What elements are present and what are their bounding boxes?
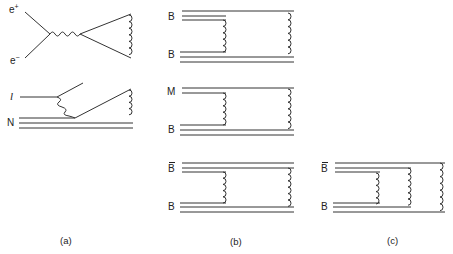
lepton-label: l: [10, 91, 13, 102]
caption-a: (a): [60, 236, 72, 246]
gluon-spring: [223, 93, 226, 125]
gluon-spring: [288, 13, 291, 54]
gluon-spring: [129, 15, 132, 55]
bb-exchange-diagram: [180, 11, 294, 62]
quark-line: [80, 14, 131, 34]
mb-exchange-diagram: [180, 88, 294, 135]
nucleon-label: N: [7, 118, 14, 128]
gluon-spring: [440, 163, 443, 211]
diagram-canvas: [0, 0, 453, 254]
feynman-diagram-figure: e+ e− l N (a) B B M B B B (b) B B (c): [0, 0, 453, 254]
gluon-spring: [288, 168, 291, 206]
caption-c: (c): [387, 236, 398, 246]
positron-line: [25, 12, 50, 34]
baryon-label: B: [168, 50, 175, 60]
bbarb-exchange-diagram: [180, 163, 294, 212]
dis-diagram: [19, 83, 133, 128]
electron-line: [25, 34, 50, 58]
positron-label: e+: [9, 3, 19, 15]
gluon-spring: [223, 172, 226, 203]
baryon-label: B: [168, 12, 175, 22]
photon-propagator: [50, 32, 80, 36]
antibaryon-label: B: [321, 164, 328, 174]
baryon-label: B: [321, 202, 328, 212]
annihilation-diagram: [25, 12, 132, 58]
outgoing-lepton-line: [57, 83, 83, 97]
gluon-spring: [129, 90, 132, 115]
gluon-spring: [223, 20, 226, 52]
caption-b: (b): [230, 237, 242, 247]
antibaryon-label: B: [168, 164, 175, 174]
gluon-spring: [408, 168, 411, 205]
electron-label: e−: [10, 54, 20, 66]
virtual-photon: [57, 97, 75, 118]
gluon-spring: [376, 173, 379, 204]
gluon-spring: [288, 89, 291, 129]
baryon-label: B: [168, 202, 175, 212]
three-gluon-exchange-diagram: [333, 163, 445, 212]
struck-quark-line: [75, 89, 131, 118]
meson-label: M: [167, 87, 175, 97]
baryon-label: B: [168, 125, 175, 135]
antiquark-line: [80, 34, 131, 58]
